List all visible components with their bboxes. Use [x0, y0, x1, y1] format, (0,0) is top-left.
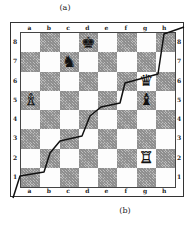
- square-f6: [117, 72, 136, 91]
- square-d1: [79, 168, 98, 187]
- rank-label-3: 3: [11, 134, 19, 141]
- square-f4: [117, 110, 136, 129]
- square-f7: [117, 52, 136, 71]
- rank-label-3: 3: [175, 134, 183, 141]
- caption-b: (b): [110, 206, 140, 215]
- square-f1: [117, 168, 136, 187]
- square-d3: [79, 129, 98, 148]
- square-d2: [79, 149, 98, 168]
- square-g7: [137, 52, 156, 71]
- rank-label-2: 2: [175, 154, 183, 161]
- black-knight-icon: ♞: [62, 54, 76, 70]
- square-e3: [98, 129, 117, 148]
- rank-label-1: 1: [11, 173, 19, 180]
- file-label-b: b: [39, 24, 58, 31]
- rank-label-1: 1: [175, 173, 183, 180]
- square-g5: ♝: [137, 91, 156, 110]
- square-h7: [156, 52, 175, 71]
- square-b6: [40, 72, 59, 91]
- square-e7: [98, 52, 117, 71]
- square-d5: [79, 91, 98, 110]
- square-h3: [156, 129, 175, 148]
- rank-label-7: 7: [11, 57, 19, 64]
- file-label-f: f: [116, 187, 135, 194]
- square-c3: [60, 129, 79, 148]
- square-d8: ♚: [79, 33, 98, 52]
- rank-label-5: 5: [11, 96, 19, 103]
- file-label-f: f: [116, 24, 135, 31]
- square-f2: [117, 149, 136, 168]
- square-c4: [60, 110, 79, 129]
- square-h5: [156, 91, 175, 110]
- square-h8: [156, 33, 175, 52]
- square-c5: [60, 91, 79, 110]
- rank-label-2: 2: [11, 154, 19, 161]
- square-f8: [117, 33, 136, 52]
- square-g6: ♛: [137, 72, 156, 91]
- square-c7: ♞: [60, 52, 79, 71]
- square-g2: ♖: [137, 149, 156, 168]
- square-f5: [117, 91, 136, 110]
- square-a3: [21, 129, 40, 148]
- file-label-g: g: [136, 24, 155, 31]
- square-f3: [117, 129, 136, 148]
- square-e2: [98, 149, 117, 168]
- square-c2: [60, 149, 79, 168]
- rank-label-8: 8: [11, 38, 19, 45]
- file-label-d: d: [78, 187, 97, 194]
- file-label-h: h: [155, 187, 174, 194]
- square-a1: [21, 168, 40, 187]
- rank-label-6: 6: [175, 77, 183, 84]
- caption-a: (a): [50, 3, 80, 12]
- rank-label-4: 4: [175, 115, 183, 122]
- square-d7: [79, 52, 98, 71]
- square-c6: [60, 72, 79, 91]
- file-label-b: b: [39, 187, 58, 194]
- square-g4: [137, 110, 156, 129]
- square-c8: [60, 33, 79, 52]
- square-g3: [137, 129, 156, 148]
- square-b3: [40, 129, 59, 148]
- square-a4: [21, 110, 40, 129]
- file-label-h: h: [155, 24, 174, 31]
- square-a7: [21, 52, 40, 71]
- square-b5: [40, 91, 59, 110]
- white-bishop-icon: ♗: [23, 92, 37, 108]
- square-g1: [137, 168, 156, 187]
- square-a6: [21, 72, 40, 91]
- file-label-d: d: [78, 24, 97, 31]
- square-b2: [40, 149, 59, 168]
- square-b8: [40, 33, 59, 52]
- square-a2: [21, 149, 40, 168]
- square-g8: [137, 33, 156, 52]
- file-label-e: e: [97, 187, 116, 194]
- square-c1: [60, 168, 79, 187]
- black-king-icon: ♚: [81, 35, 95, 51]
- square-e5: [98, 91, 117, 110]
- square-d6: [79, 72, 98, 91]
- square-d4: [79, 110, 98, 129]
- rank-label-5: 5: [175, 96, 183, 103]
- square-h4: [156, 110, 175, 129]
- square-h2: [156, 149, 175, 168]
- black-queen-icon: ♛: [139, 73, 153, 89]
- square-h6: [156, 72, 175, 91]
- rank-label-6: 6: [11, 77, 19, 84]
- square-b4: [40, 110, 59, 129]
- rank-label-7: 7: [175, 57, 183, 64]
- rank-label-8: 8: [175, 38, 183, 45]
- square-h1: [156, 168, 175, 187]
- black-bishop-icon: ♝: [139, 92, 153, 108]
- square-e1: [98, 168, 117, 187]
- chess-board: ♚♞♛♗♝♖: [20, 32, 176, 188]
- white-rook-icon: ♖: [139, 150, 153, 166]
- file-label-e: e: [97, 24, 116, 31]
- file-label-a: a: [20, 24, 39, 31]
- square-e8: [98, 33, 117, 52]
- rank-label-4: 4: [11, 115, 19, 122]
- square-a5: ♗: [21, 91, 40, 110]
- square-e6: [98, 72, 117, 91]
- square-a8: [21, 33, 40, 52]
- file-label-c: c: [59, 187, 78, 194]
- square-e4: [98, 110, 117, 129]
